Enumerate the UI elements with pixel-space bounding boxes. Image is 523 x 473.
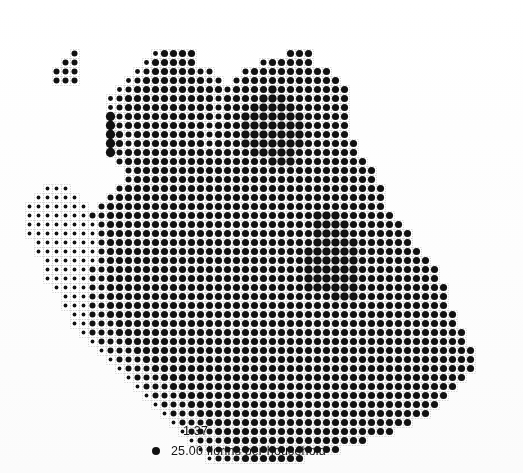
proportional-symbol-map bbox=[0, 0, 523, 473]
figure-root: 1.37 25.00 florins per household bbox=[0, 0, 523, 473]
